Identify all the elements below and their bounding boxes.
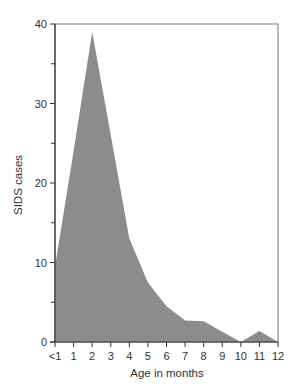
x-tick-label: 4 <box>126 350 132 362</box>
x-tick-label: <1 <box>49 350 62 362</box>
y-tick-label: 20 <box>35 177 47 189</box>
x-tick-label: 11 <box>254 350 265 362</box>
x-tick-label: 10 <box>235 350 247 362</box>
y-tick-label: 10 <box>35 257 47 269</box>
x-tick-label: 3 <box>108 350 114 362</box>
y-tick-label: 40 <box>35 18 47 30</box>
x-tick-label: 2 <box>89 350 95 362</box>
x-tick-label: 7 <box>182 350 188 362</box>
x-tick-label: 1 <box>71 350 77 362</box>
y-tick-label: 0 <box>41 336 47 348</box>
x-tick-label: 8 <box>201 350 207 362</box>
x-tick-label: 12 <box>272 350 284 362</box>
x-axis-ticks: <1123456789101112 <box>49 342 284 362</box>
y-tick-label: 30 <box>35 98 47 110</box>
x-axis-label: Age in months <box>130 367 204 379</box>
y-axis-ticks: 010203040 <box>35 18 55 348</box>
x-tick-label: 6 <box>163 350 169 362</box>
x-tick-label: 9 <box>219 350 225 362</box>
area-series <box>55 32 278 342</box>
y-axis-label: SIDS cases <box>12 155 24 215</box>
x-tick-label: 5 <box>145 350 151 362</box>
sids-area-chart: 010203040 <1123456789101112 SIDS cases A… <box>0 0 298 390</box>
